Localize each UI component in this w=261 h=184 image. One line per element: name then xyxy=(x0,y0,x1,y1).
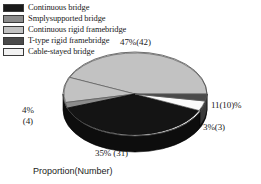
data-label-t-type-rigid-framebridge: 11(10)% xyxy=(211,100,241,110)
data-label-continuous-rigid-framebridge: 47%(42) xyxy=(120,37,151,47)
legend-swatch-cable-stayed-bridge xyxy=(3,48,24,56)
legend-label-continuous-rigid-framebridge: Continuous rigid framebridge xyxy=(28,25,126,34)
legend-swatch-continuous-rigid-framebridge xyxy=(3,26,24,34)
legend-item-continuous-bridge: Continuous bridge xyxy=(3,2,135,13)
legend-label-smplysupported-bridge: Smplysupported bridge xyxy=(28,14,105,23)
data-label-cable-stayed-bridge: 3%(3) xyxy=(203,122,225,132)
data-label-smplysupported-percent: 4% xyxy=(22,105,34,116)
figure-caption: Proportion(Number) xyxy=(33,166,113,176)
legend-label-continuous-bridge: Continuous bridge xyxy=(28,3,89,12)
legend-swatch-smplysupported-bridge xyxy=(3,15,24,23)
pie-graphic xyxy=(60,36,210,154)
data-label-smplysupported-count: (4) xyxy=(22,116,34,127)
pie-svg xyxy=(60,36,210,154)
data-label-continuous-bridge: 35% (31) xyxy=(95,148,128,158)
pie-chart-figure: Continuous bridge Smplysupported bridge … xyxy=(0,0,261,184)
legend-item-continuous-rigid-framebridge: Continuous rigid framebridge xyxy=(3,24,135,35)
legend-swatch-continuous-bridge xyxy=(3,4,24,12)
legend-item-smplysupported-bridge: Smplysupported bridge xyxy=(3,13,135,24)
legend-swatch-t-type-rigid-framebridge xyxy=(3,37,24,45)
data-label-smplysupported-bridge: 4% (4) xyxy=(22,105,34,127)
